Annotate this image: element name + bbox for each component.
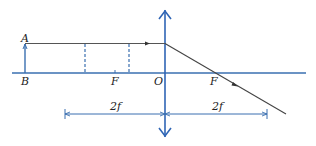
dimension-lines (65, 109, 267, 119)
incident-ray-arrow-icon (145, 42, 150, 46)
lens-diagram: A B F O F 2f 2f (0, 0, 316, 146)
label-dim-left: 2f (109, 100, 123, 113)
label-b: B (20, 75, 29, 88)
label-focus-right: F (209, 75, 218, 88)
refracted-ray (165, 44, 286, 115)
label-optical-center: O (154, 75, 163, 88)
label-a: A (20, 32, 29, 45)
label-dim-right: 2f (211, 100, 225, 113)
label-focus-left: F (110, 75, 119, 88)
